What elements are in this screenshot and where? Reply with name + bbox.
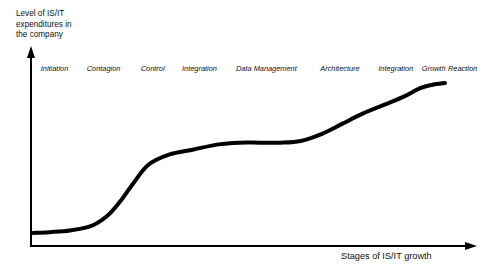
x-axis-label: Stages of IS/IT growth (341, 250, 432, 262)
growth-curve-line (33, 83, 445, 233)
axis-group (27, 46, 477, 250)
chart-figure: Level of IS/IT expenditures in the compa… (0, 0, 492, 280)
y-axis-arrowhead (27, 46, 35, 58)
plot-area (0, 0, 492, 280)
x-axis-arrowhead (465, 242, 477, 250)
